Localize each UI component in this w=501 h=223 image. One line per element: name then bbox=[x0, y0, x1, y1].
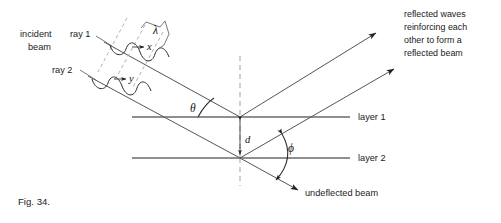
ray-2-leader bbox=[80, 70, 96, 80]
ray-1-wave-path bbox=[110, 43, 169, 61]
reflected-ray-1-line bbox=[240, 33, 376, 117]
ray-2-leader-line bbox=[80, 70, 96, 80]
point-y-label: y bbox=[128, 73, 134, 84]
reflected-note-line4: reflected beam bbox=[404, 48, 463, 58]
point-x-label: x bbox=[146, 41, 152, 52]
layer-lines bbox=[132, 117, 350, 158]
ray-1-label: ray 1 bbox=[70, 29, 90, 39]
reflected-note-line2: reinforcing each bbox=[404, 22, 467, 32]
wavelength-label: λ bbox=[152, 24, 158, 36]
layer-1-label: layer 1 bbox=[358, 112, 386, 122]
theta-label: θ bbox=[190, 102, 196, 114]
layer-2-label: layer 2 bbox=[358, 153, 386, 163]
phi-arc bbox=[276, 134, 288, 180]
undeflected-beam-label: undeflected beam bbox=[305, 188, 378, 198]
d-spacing-indicator: d bbox=[240, 121, 251, 155]
theta-angle: θ bbox=[190, 98, 214, 117]
ray-1-wave bbox=[110, 43, 169, 61]
undeflected-beam-line bbox=[240, 158, 298, 190]
ray-2-wave-path bbox=[92, 77, 151, 95]
reflected-note-line1: reflected waves bbox=[404, 9, 466, 19]
diagram-canvas: θ ϕ d x bbox=[0, 0, 501, 223]
undeflected-beam-ray bbox=[240, 158, 298, 190]
ray-2-label: ray 2 bbox=[52, 65, 72, 75]
incident-ray-1 bbox=[104, 42, 240, 117]
ray-1-leader-line bbox=[96, 36, 112, 46]
ray-1-incident-line bbox=[104, 42, 240, 117]
figure-caption: Fig. 34. bbox=[18, 196, 50, 207]
ray-2-wave bbox=[92, 77, 151, 95]
wavelength-bracket-tail bbox=[158, 21, 169, 49]
reflected-ray-1 bbox=[240, 33, 376, 117]
phi-label: ϕ bbox=[288, 142, 294, 155]
d-spacing-label: d bbox=[245, 134, 251, 145]
ray-1-leader bbox=[96, 36, 112, 46]
phi-angle: ϕ bbox=[276, 134, 294, 180]
incident-beam-label-line1: incident bbox=[20, 29, 52, 39]
wavefront-line-1 bbox=[98, 18, 127, 72]
reflected-note-line3: other to form a bbox=[404, 35, 462, 45]
figure-bragg-reflection: θ ϕ d x bbox=[0, 0, 501, 223]
incident-beam-label-line2: beam bbox=[28, 42, 51, 52]
